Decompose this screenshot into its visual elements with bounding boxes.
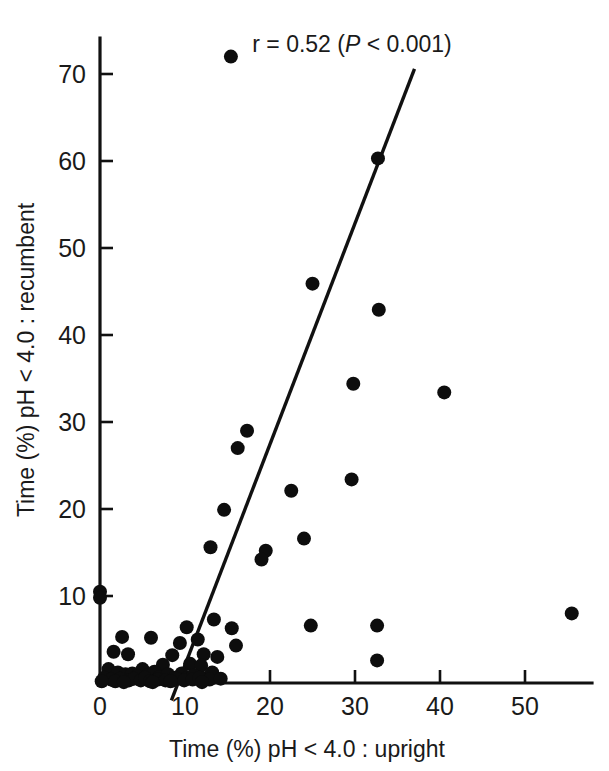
data-point (207, 612, 221, 626)
data-point (284, 484, 298, 498)
data-point (346, 377, 360, 391)
data-point (173, 636, 187, 650)
data-point (93, 591, 107, 605)
y-axis-title: Time (%) pH < 4.0 : recumbent (13, 202, 39, 517)
x-axis-tick-labels: 01020304050 (93, 692, 539, 720)
x-tick-label-40: 40 (426, 692, 454, 720)
data-point (297, 532, 311, 546)
x-tick-label-30: 30 (341, 692, 369, 720)
y-tick-label-20: 20 (58, 495, 86, 523)
data-point (565, 606, 579, 620)
data-point (437, 385, 451, 399)
figure-container: 10203040506070 01020304050 r = 0.52 (P <… (0, 0, 609, 771)
data-point (372, 303, 386, 317)
data-point (115, 630, 129, 644)
data-point (164, 674, 178, 688)
y-axis-tick-labels: 10203040506070 (58, 60, 86, 610)
y-tick-label-60: 60 (58, 147, 86, 175)
data-point (117, 675, 131, 689)
data-point (306, 277, 320, 291)
correlation-annotation: r = 0.52 (P < 0.001) (252, 31, 451, 57)
data-point (95, 674, 109, 688)
data-point (370, 653, 384, 667)
y-tick-label-50: 50 (58, 234, 86, 262)
y-axis-ticks (100, 74, 113, 596)
y-tick-label-10: 10 (58, 582, 86, 610)
y-tick-label-40: 40 (58, 321, 86, 349)
data-point (121, 647, 135, 661)
y-tick-label-30: 30 (58, 408, 86, 436)
data-point (204, 540, 218, 554)
data-point (371, 151, 385, 165)
x-axis-title: Time (%) pH < 4.0 : upright (169, 736, 445, 762)
data-point (229, 639, 243, 653)
data-point (225, 621, 239, 635)
data-point (214, 672, 228, 686)
data-point (210, 650, 224, 664)
x-axis-ticks (185, 670, 525, 683)
data-point (370, 619, 384, 633)
data-point (217, 503, 231, 517)
scatter-plot: 10203040506070 01020304050 r = 0.52 (P <… (0, 0, 609, 771)
x-tick-label-50: 50 (511, 692, 539, 720)
data-point (191, 633, 205, 647)
axes (100, 38, 592, 683)
data-point (224, 50, 238, 64)
y-tick-label-70: 70 (58, 60, 86, 88)
x-tick-label-20: 20 (256, 692, 284, 720)
data-point (195, 675, 209, 689)
data-point (180, 620, 194, 634)
data-point (231, 441, 245, 455)
data-point (345, 472, 359, 486)
data-point (144, 631, 158, 645)
data-point (304, 619, 318, 633)
data-point (255, 552, 269, 566)
data-point (146, 675, 160, 689)
data-points (93, 50, 579, 690)
data-point (240, 424, 254, 438)
x-tick-label-10: 10 (171, 692, 199, 720)
data-point (107, 645, 121, 659)
x-tick-label-0: 0 (93, 692, 107, 720)
